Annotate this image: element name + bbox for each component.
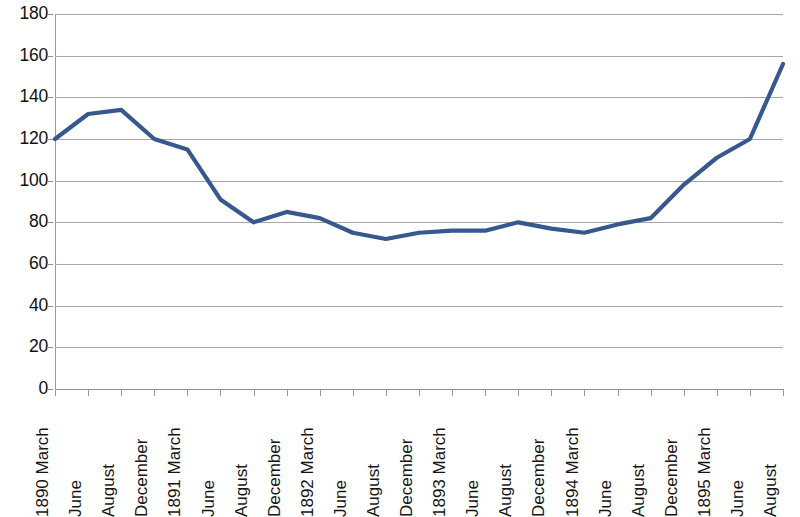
x-tick-mark	[783, 389, 784, 396]
x-label-slot: December	[144, 398, 145, 517]
x-label-slot: June	[608, 398, 609, 517]
plot-area	[55, 14, 783, 389]
x-tick-mark	[187, 389, 188, 396]
x-tick-mark	[353, 389, 354, 396]
y-tick-label-40: 40	[2, 297, 48, 315]
x-tick-label: 1892 March	[299, 427, 316, 517]
x-label-slot: June	[740, 398, 741, 517]
x-tick-label: 1895 March	[696, 427, 713, 517]
x-tick-label: August	[233, 464, 250, 517]
y-tick-mark-100	[48, 181, 53, 182]
x-label-slot: August	[244, 398, 245, 517]
x-tick-label: August	[100, 464, 117, 517]
x-tick-mark	[386, 389, 387, 396]
x-label-slot: June	[211, 398, 212, 517]
x-axis-ticks	[55, 389, 783, 396]
x-tick-mark	[419, 389, 420, 396]
y-tick-mark-20	[48, 347, 53, 348]
y-tick-label-120: 120	[2, 130, 48, 148]
x-label-slot: August	[773, 398, 774, 517]
y-tick-label-100: 100	[2, 172, 48, 190]
x-label-slot: June	[78, 398, 79, 517]
y-tick-label-20: 20	[2, 339, 48, 357]
y-tick-mark-80	[48, 222, 53, 223]
x-tick-label: June	[729, 480, 746, 517]
y-tick-mark-40	[48, 306, 53, 307]
x-tick-mark	[154, 389, 155, 396]
x-label-slot: December	[409, 398, 410, 517]
x-label-slot: June	[475, 398, 476, 517]
x-axis-labels: 1890 MarchJuneAugustDecember1891 MarchJu…	[55, 398, 783, 517]
x-tick-mark	[121, 389, 122, 396]
y-tick-mark-180	[48, 14, 53, 15]
x-label-slot: 1894 March	[575, 398, 576, 517]
x-tick-label: 1894 March	[564, 427, 581, 517]
x-tick-label: December	[530, 439, 547, 517]
x-label-slot: June	[343, 398, 344, 517]
x-tick-label: June	[67, 480, 84, 517]
x-label-slot: December	[541, 398, 542, 517]
x-label-slot: August	[111, 398, 112, 517]
y-tick-label-80: 80	[2, 214, 48, 232]
x-label-slot: 1895 March	[707, 398, 708, 517]
x-tick-label: 1893 March	[431, 427, 448, 517]
x-tick-label: 1891 March	[166, 427, 183, 517]
y-axis: 020406080100120140160180	[0, 14, 48, 389]
x-tick-label: December	[266, 439, 283, 517]
x-tick-label: December	[133, 439, 150, 517]
x-tick-mark	[518, 389, 519, 396]
x-tick-mark	[320, 389, 321, 396]
y-tick-label-60: 60	[2, 255, 48, 273]
x-label-slot: December	[674, 398, 675, 517]
x-tick-mark	[254, 389, 255, 396]
x-label-slot: August	[376, 398, 377, 517]
x-tick-label: August	[630, 464, 647, 517]
y-tick-mark-160	[48, 56, 53, 57]
x-tick-mark	[55, 389, 56, 396]
y-tick-label-180: 180	[2, 5, 48, 23]
x-label-slot: August	[508, 398, 509, 517]
x-tick-label: 1890 March	[34, 427, 51, 517]
x-tick-label: December	[398, 439, 415, 517]
x-tick-label: August	[762, 464, 779, 517]
line-chart: 020406080100120140160180 1890 MarchJuneA…	[0, 0, 800, 517]
y-tick-mark-120	[48, 139, 53, 140]
x-tick-mark	[618, 389, 619, 396]
x-tick-mark	[684, 389, 685, 396]
x-label-slot: August	[641, 398, 642, 517]
x-tick-mark	[717, 389, 718, 396]
x-label-slot: 1891 March	[177, 398, 178, 517]
series-path	[55, 64, 783, 239]
x-label-slot: 1890 March	[45, 398, 46, 517]
y-tick-label-160: 160	[2, 47, 48, 65]
x-tick-mark	[220, 389, 221, 396]
y-tick-label-140: 140	[2, 89, 48, 107]
x-tick-label: August	[497, 464, 514, 517]
x-tick-mark	[551, 389, 552, 396]
x-tick-mark	[651, 389, 652, 396]
series-line	[55, 14, 783, 389]
x-tick-label: June	[200, 480, 217, 517]
x-label-slot: 1892 March	[310, 398, 311, 517]
x-tick-label: August	[365, 464, 382, 517]
y-tick-mark-140	[48, 97, 53, 98]
y-tick-mark-60	[48, 264, 53, 265]
y-tick-label-0: 0	[2, 380, 48, 398]
x-tick-label: June	[597, 480, 614, 517]
x-tick-mark	[750, 389, 751, 396]
x-label-slot: 1893 March	[442, 398, 443, 517]
x-tick-mark	[485, 389, 486, 396]
x-tick-mark	[287, 389, 288, 396]
x-tick-mark	[88, 389, 89, 396]
x-tick-label: June	[332, 480, 349, 517]
x-tick-label: December	[663, 439, 680, 517]
x-tick-mark	[584, 389, 585, 396]
x-tick-label: June	[464, 480, 481, 517]
x-label-slot: December	[277, 398, 278, 517]
y-tick-mark-0	[48, 389, 53, 390]
x-tick-mark	[452, 389, 453, 396]
